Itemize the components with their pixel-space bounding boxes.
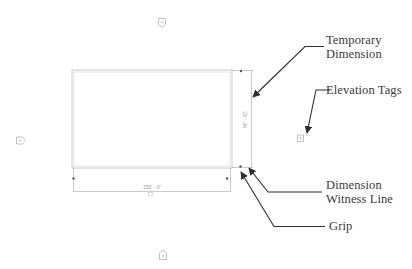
elevation-tag-icon — [160, 250, 167, 260]
callout-arrows — [241, 47, 330, 227]
arrow-grip — [241, 172, 325, 227]
elevation-tag-icon — [17, 137, 26, 144]
width-dimension-text[interactable]: 150' - 0" — [143, 184, 162, 190]
elevation-tag-left[interactable] — [17, 137, 26, 144]
callout-grip: Grip — [329, 219, 352, 233]
callout-text-line: Temporary — [326, 33, 382, 47]
elevation-tag-right[interactable] — [298, 135, 304, 142]
grip-right — [226, 177, 228, 179]
elevation-tag-top[interactable] — [159, 19, 166, 28]
callout-elevation-tags: Elevation Tags — [326, 83, 402, 97]
grips[interactable] — [72, 70, 242, 180]
callout-text-line: Witness Line — [326, 192, 393, 206]
callout-text-line: Elevation Tags — [326, 83, 402, 97]
dimension-lock-icon — [149, 193, 153, 196]
vertical-temporary-dimension[interactable]: 90' - 0" — [232, 70, 253, 168]
callout-text-line: Dimension — [326, 47, 382, 61]
horizontal-temporary-dimension[interactable]: 150' - 0" — [73, 168, 231, 196]
callout-dimension-witness-line: Dimension Witness Line — [326, 178, 393, 206]
grip-left — [72, 177, 74, 179]
grip-bottom — [239, 165, 241, 167]
elevation-tag-icon — [159, 19, 166, 28]
arrow-temporary-dimension — [253, 47, 324, 98]
room-walls[interactable] — [72, 70, 232, 168]
callout-text-line: Dimension — [326, 178, 393, 192]
callout-text-line: Grip — [329, 219, 352, 233]
grip-top — [240, 70, 242, 72]
elevation-tag-bottom[interactable] — [160, 250, 167, 260]
callout-temporary-dimension: Temporary Dimension — [326, 33, 382, 61]
arrow-dimension-witness-line — [249, 168, 322, 192]
